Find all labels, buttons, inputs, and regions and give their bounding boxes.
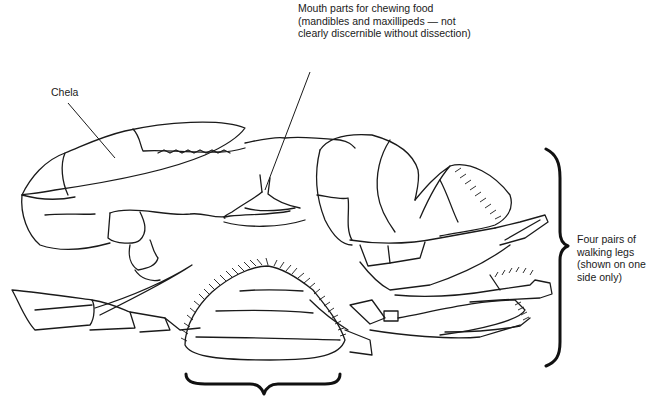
- abdomen-brace: [186, 374, 340, 394]
- walking-legs-brace: [546, 149, 568, 366]
- chela-claw: [22, 122, 245, 249]
- abdominal-flap: [181, 258, 346, 360]
- walking-legs-label: Four pairs of walking legs (shown on one…: [577, 233, 663, 283]
- mouth-parts-label: Mouth parts for chewing food (mandibles …: [298, 2, 478, 40]
- mouth-parts-leader-line: [265, 72, 310, 190]
- right-legs: [310, 135, 552, 355]
- mouth-parts: [224, 175, 305, 226]
- left-leg: [12, 265, 200, 332]
- crab-line-drawing: [0, 0, 664, 400]
- chela-label: Chela: [51, 86, 78, 99]
- chela-leader-line: [68, 103, 115, 158]
